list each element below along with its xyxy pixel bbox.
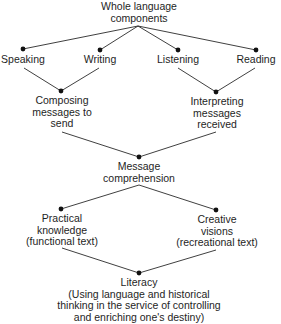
comprehension-line-1: Message [103,161,175,173]
literacy-line-1: Literacy [57,277,220,289]
node-message-comprehension: Message comprehension [103,161,175,184]
root-line-2: components [101,13,177,25]
speaking-label: Speaking [1,54,45,66]
creative-line-3: (recreational text) [176,237,258,249]
node-dot-listening [176,48,181,53]
composing-line-1: Composing [32,95,92,107]
node-writing: Writing [84,54,116,66]
node-dot-practical [59,207,64,212]
node-practical-knowledge: Practical knowledge (functional text) [26,213,98,248]
edge-comprehension-creative [139,185,216,210]
edge-creative-literacy [139,250,216,273]
edge-comprehension-practical [61,185,139,209]
edge-practical-literacy [62,248,139,273]
edge-composing-comprehension [62,132,139,157]
node-literacy: Literacy (Using language and historical … [57,277,220,323]
node-reading: Reading [236,54,275,66]
interpreting-line-3: received [190,119,243,131]
node-dot-writing [98,48,103,53]
edge-root-listening [138,26,178,50]
edge-root-reading [138,26,256,50]
writing-label: Writing [84,54,116,66]
listening-label: Listening [157,54,199,66]
literacy-line-3: thinking in the service of controlling [57,300,220,312]
root-line-1: Whole language [101,1,177,13]
practical-line-1: Practical [26,213,98,225]
edge-reading-interpreting [216,68,255,92]
node-listening: Listening [157,54,199,66]
edge-interpreting-comprehension [139,132,216,157]
node-speaking: Speaking [1,54,45,66]
edge-writing-composing [61,68,99,91]
node-creative-visions: Creative visions (recreational text) [176,214,258,249]
interpreting-line-1: Interpreting [190,96,243,108]
creative-line-1: Creative [176,214,258,226]
node-dot-interpreting [214,90,219,95]
reading-label: Reading [236,54,275,66]
node-dot-comprehension [137,155,142,160]
edge-speaking-composing [24,68,61,91]
node-whole-language-components: Whole language components [101,1,177,24]
node-dot-composing [59,89,64,94]
literacy-line-4: and enriching one's destiny) [57,312,220,324]
edge-listening-interpreting [178,68,216,92]
composing-line-3: send [32,118,92,130]
comprehension-line-2: comprehension [103,173,175,185]
edge-root-speaking [23,26,138,49]
practical-line-3: (functional text) [26,236,98,248]
node-composing-messages: Composing messages to send [32,95,92,130]
node-dot-creative [214,208,219,213]
node-dot-reading [254,48,259,53]
node-dot-literacy [137,271,142,276]
node-dot-speaking [21,47,26,52]
node-interpreting-messages: Interpreting messages received [190,96,243,131]
